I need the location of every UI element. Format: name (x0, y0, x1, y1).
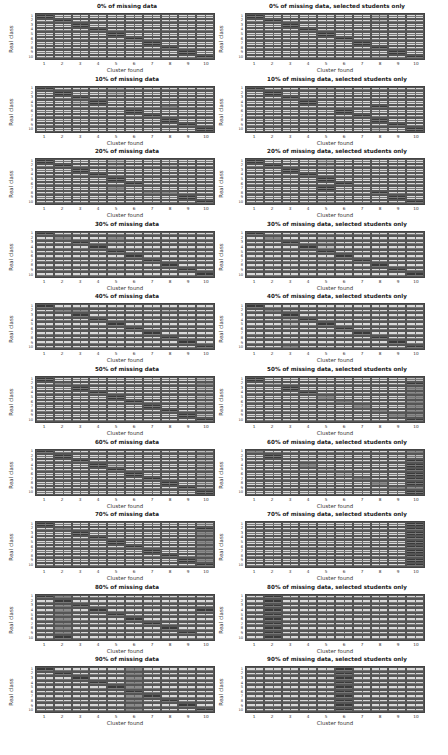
matrix-cell (125, 345, 143, 350)
y-tick: 10 (238, 564, 243, 568)
matrix-cell (161, 200, 179, 205)
confusion-matrix (35, 666, 215, 713)
matrix-cell (317, 490, 335, 495)
matrix-cell (317, 418, 335, 423)
matrix-cell (282, 635, 300, 640)
confusion-matrix (35, 521, 215, 568)
matrix-cell (282, 55, 300, 60)
matrix-cell (282, 272, 300, 277)
matrix-cell (353, 708, 371, 713)
matrix-cell (125, 708, 143, 713)
y-tick: 10 (238, 419, 243, 423)
matrix-cell (388, 55, 406, 60)
matrix-cell (72, 127, 90, 132)
y-axis-label: Real class (217, 453, 225, 497)
matrix-cell (89, 418, 107, 423)
matrix-cell (299, 418, 317, 423)
matrix-cell (54, 418, 72, 423)
y-axis-label: Real class (7, 17, 15, 61)
y-tick: 5 (241, 396, 243, 400)
matrix-cell (246, 563, 264, 568)
matrix-cell (246, 345, 264, 350)
matrix-cell (72, 490, 90, 495)
matrix-cell (264, 200, 282, 205)
matrix-cell (178, 55, 196, 60)
confusion-matrix (35, 231, 215, 278)
matrix-cell (107, 272, 125, 277)
panel-title: 70% of missing data, selected students o… (242, 511, 432, 517)
matrix-cell (335, 127, 353, 132)
y-axis-label: Real class (217, 598, 225, 642)
heatmap-panel-18: 90% of missing data Real class 123456789… (2, 656, 222, 728)
confusion-matrix (35, 158, 215, 205)
y-ticks: 12345678910 (20, 522, 34, 568)
matrix-cell (143, 345, 161, 350)
confusion-matrix (245, 231, 425, 278)
panel-title: 20% of missing data (32, 148, 222, 154)
matrix-cell (89, 272, 107, 277)
heatmap-panel-9: 40% of missing data, selected students o… (212, 293, 432, 365)
y-ticks: 12345678910 (20, 232, 34, 278)
matrix-cell (282, 345, 300, 350)
y-tick: 10 (238, 637, 243, 641)
panel-title: 70% of missing data (32, 511, 222, 517)
matrix-cell (54, 127, 72, 132)
matrix-cell (107, 708, 125, 713)
heatmap-panel-7: 30% of missing data, selected students o… (212, 221, 432, 293)
y-ticks: 12345678910 (230, 87, 244, 133)
matrix-cell (246, 708, 264, 713)
matrix-cell (161, 127, 179, 132)
confusion-matrix (245, 376, 425, 423)
panel-title: 60% of missing data (32, 439, 222, 445)
matrix-cell (264, 708, 282, 713)
matrix-cell (246, 635, 264, 640)
matrix-cell (406, 490, 424, 495)
matrix-cell (72, 272, 90, 277)
panel-title: 50% of missing data (32, 366, 222, 372)
x-axis-label: Cluster found (35, 212, 215, 218)
x-axis-label: Cluster found (245, 575, 425, 581)
matrix-cell (178, 272, 196, 277)
matrix-cell (107, 200, 125, 205)
x-axis-label: Cluster found (35, 140, 215, 146)
matrix-cell (72, 200, 90, 205)
matrix-cell (125, 127, 143, 132)
matrix-cell (371, 345, 389, 350)
matrix-cell (125, 490, 143, 495)
x-axis-label: Cluster found (245, 140, 425, 146)
matrix-cell (161, 418, 179, 423)
y-tick: 10 (28, 491, 33, 495)
y-axis-label: Real class (7, 453, 15, 497)
matrix-cell (178, 635, 196, 640)
x-axis-label: Cluster found (35, 720, 215, 726)
matrix-cell (178, 708, 196, 713)
y-axis-label: Real class (7, 235, 15, 279)
matrix-cell (36, 55, 54, 60)
matrix-cell (406, 708, 424, 713)
y-tick: 5 (31, 33, 33, 37)
matrix-cell (178, 200, 196, 205)
matrix-cell (388, 418, 406, 423)
matrix-cell (299, 55, 317, 60)
confusion-matrix (245, 13, 425, 60)
matrix-cell (299, 563, 317, 568)
matrix-cell (282, 490, 300, 495)
matrix-cell (54, 55, 72, 60)
matrix-cell (406, 200, 424, 205)
panel-title: 30% of missing data (32, 221, 222, 227)
matrix-cell (388, 708, 406, 713)
matrix-cell (178, 563, 196, 568)
matrix-cell (317, 635, 335, 640)
matrix-cell (388, 635, 406, 640)
y-axis-label: Real class (217, 307, 225, 351)
matrix-cell (317, 127, 335, 132)
matrix-cell (89, 490, 107, 495)
heatmap-panel-11: 50% of missing data, selected students o… (212, 366, 432, 438)
matrix-cell (89, 345, 107, 350)
matrix-cell (72, 418, 90, 423)
x-axis-label: Cluster found (35, 575, 215, 581)
panel-title: 80% of missing data (32, 584, 222, 590)
matrix-cell (143, 708, 161, 713)
matrix-cell (54, 200, 72, 205)
matrix-cell (317, 563, 335, 568)
